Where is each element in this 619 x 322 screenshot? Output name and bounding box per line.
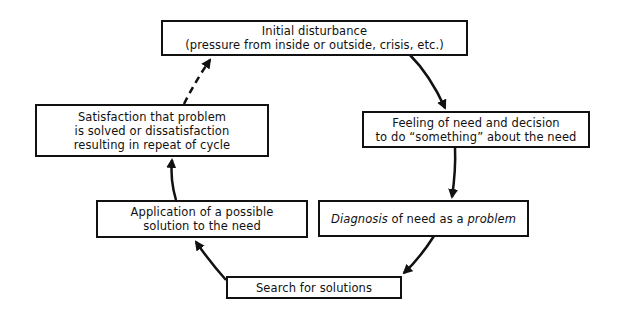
node-satisfaction-line2: is solved or dissatisfaction bbox=[75, 124, 230, 138]
node-satisfaction-line3: resulting in repeat of cycle bbox=[74, 138, 231, 152]
node-diagnosis-text: Diagnosis of need as a problem bbox=[331, 212, 516, 226]
node-satisfaction: Satisfaction that problem is solved or d… bbox=[35, 104, 269, 157]
node-search-line1: Search for solutions bbox=[256, 281, 372, 295]
arrow-satisfaction-to-initial-dashed bbox=[184, 60, 210, 104]
node-initial-line2: (pressure from inside or outside, crisis… bbox=[185, 38, 444, 52]
node-application: Application of a possible solution to th… bbox=[96, 200, 308, 238]
node-diagnosis-italic1: Diagnosis bbox=[331, 212, 388, 226]
node-satisfaction-line1: Satisfaction that problem bbox=[78, 110, 226, 124]
node-diagnosis-italic2: problem bbox=[467, 212, 516, 226]
node-initial-line1: Initial disturbance bbox=[262, 24, 367, 38]
arrow-feeling-to-diagnosis bbox=[452, 147, 455, 197]
node-feeling-of-need: Feeling of need and decision to do “some… bbox=[362, 111, 590, 148]
node-application-line1: Application of a possible bbox=[131, 205, 274, 219]
node-feeling-line2: to do “something” about the need bbox=[376, 130, 577, 144]
arrow-initial-to-feeling bbox=[410, 55, 445, 108]
arrow-diagnosis-to-search bbox=[404, 236, 434, 273]
arrow-application-to-satisfaction bbox=[172, 160, 177, 200]
node-diagnosis-mid: of need as a bbox=[388, 212, 468, 226]
node-diagnosis: Diagnosis of need as a problem bbox=[318, 200, 529, 237]
node-feeling-line1: Feeling of need and decision bbox=[392, 116, 559, 130]
arrow-search-to-application bbox=[196, 242, 226, 280]
node-search-for-solutions: Search for solutions bbox=[226, 276, 402, 299]
node-initial-disturbance: Initial disturbance (pressure from insid… bbox=[161, 20, 468, 56]
node-application-line2: solution to the need bbox=[143, 219, 261, 233]
